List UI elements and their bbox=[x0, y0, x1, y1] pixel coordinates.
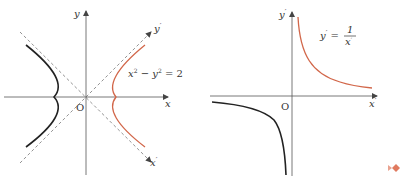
reciprocal-branch-negative bbox=[212, 102, 286, 175]
x-prime-axis-label: x′ bbox=[369, 97, 377, 109]
reciprocal-branch-positive bbox=[298, 17, 372, 88]
right-figure: y′ x′ O y′ = 1 x′ bbox=[210, 8, 377, 176]
x-axis-label: x bbox=[165, 98, 171, 109]
hyperbola-right-branch bbox=[113, 45, 145, 147]
y-prime-axis-label: y′ bbox=[278, 8, 287, 20]
marker-tail-icon bbox=[388, 165, 392, 171]
hyperbola-left-branch bbox=[26, 45, 58, 147]
fraction-numerator: 1 bbox=[347, 24, 353, 35]
hyperbola-equation: x2 − y2 = 2 bbox=[128, 67, 183, 79]
reciprocal-equation: y′ = 1 x′ bbox=[319, 24, 356, 47]
origin-label-right: O bbox=[281, 101, 289, 112]
diagram-canvas: y x O y′ x′ x2 − y2 = 2 y′ x′ O y′ = 1 x… bbox=[0, 0, 402, 179]
rotated-x-axis-label: x′ bbox=[150, 156, 158, 168]
next-slide-marker-icon[interactable] bbox=[392, 164, 400, 172]
rotated-y-axis-label: y′ bbox=[153, 22, 162, 34]
origin-label: O bbox=[76, 102, 84, 113]
y-axis-label: y bbox=[73, 8, 80, 19]
svg-text:y′ =: y′ = bbox=[319, 29, 339, 41]
fraction-denominator: x′ bbox=[345, 36, 353, 47]
left-figure: y x O y′ x′ x2 − y2 = 2 bbox=[4, 8, 183, 175]
